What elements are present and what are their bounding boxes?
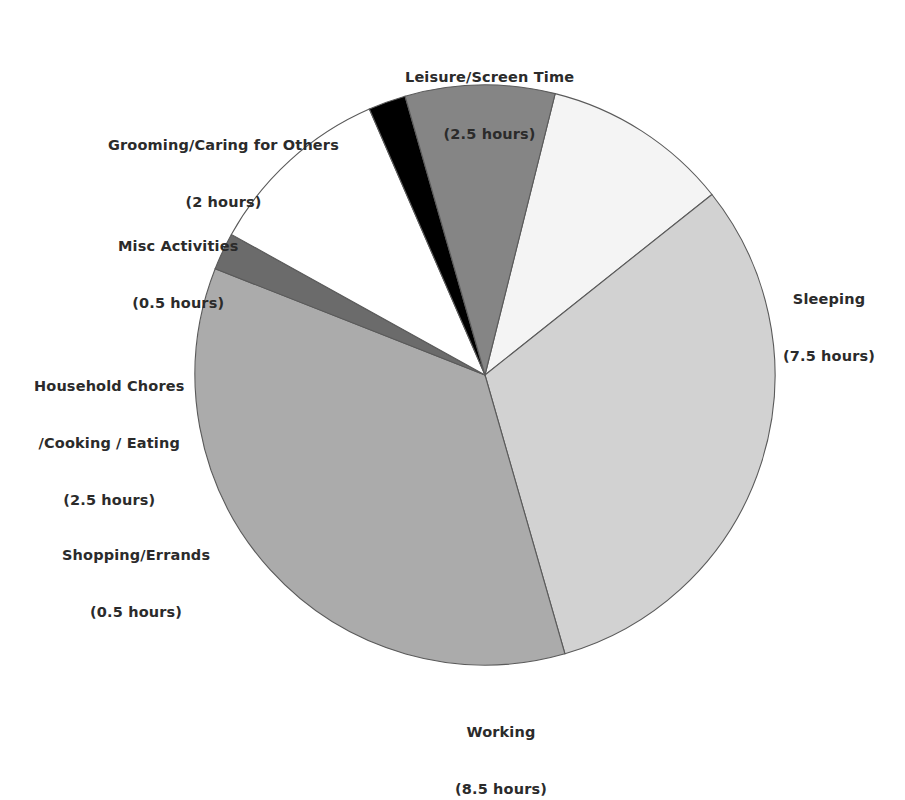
slice-label-misc-value: (0.5 hours): [118, 294, 238, 313]
slice-label-grooming-name: Grooming/Caring for Others: [108, 136, 339, 155]
slice-label-shopping-value: (0.5 hours): [62, 603, 210, 622]
slice-label-shopping-errands: Shopping/Errands (0.5 hours): [62, 508, 210, 660]
slice-label-leisure-name: Leisure/Screen Time: [405, 68, 574, 87]
slice-label-working-value: (8.5 hours): [455, 780, 547, 799]
slice-label-household-name-line1: Household Chores: [34, 377, 185, 396]
slice-label-leisure-value: (2.5 hours): [405, 125, 574, 144]
slice-label-misc-name: Misc Activities: [118, 237, 238, 256]
slice-label-sleeping: Sleeping (7.5 hours): [783, 252, 875, 404]
slice-label-household-name-line2: /Cooking / Eating: [34, 434, 185, 453]
slice-label-working-name: Working: [455, 723, 547, 742]
slice-label-working: Working (8.5 hours): [455, 685, 547, 800]
slice-label-shopping-name: Shopping/Errands: [62, 546, 210, 565]
slice-label-leisure-screen-time: Leisure/Screen Time (2.5 hours): [405, 30, 574, 182]
slice-label-misc-activities: Misc Activities (0.5 hours): [118, 199, 238, 351]
slice-label-sleeping-value: (7.5 hours): [783, 347, 875, 366]
slice-label-sleeping-name: Sleeping: [783, 290, 875, 309]
